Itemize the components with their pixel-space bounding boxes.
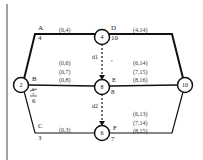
activity-f-duration: 7: [111, 136, 115, 143]
activity-b-pair-1: (0,6): [59, 59, 71, 68]
activity-e-name: E: [112, 77, 116, 84]
edge-activity-b: [28, 85, 95, 86]
network-diagram: [0, 0, 203, 160]
activity-d-name: D: [111, 25, 116, 32]
activity-b-duration: 6: [32, 98, 36, 105]
activity-e-duration: 8: [111, 89, 115, 96]
activity-a-name: A: [38, 25, 43, 32]
node-4-label: 4: [95, 34, 109, 40]
activity-c-pair: (0,3): [59, 126, 71, 135]
dummy-d2-label: d2: [92, 103, 98, 109]
edge-activity-e: [109, 85, 178, 86]
node-10-label: 10: [178, 82, 192, 88]
activity-d-pair: (4,14): [133, 26, 148, 35]
activity-c-name: C: [38, 123, 43, 130]
activity-a-duration: 4: [38, 35, 42, 42]
activity-f-name: F: [113, 125, 117, 132]
activity-e-pair-3: (8,16): [133, 76, 148, 85]
activity-b-name: B: [32, 76, 37, 83]
dummy-d1-mark: ,: [111, 56, 113, 63]
activity-d-duration: 10: [111, 35, 118, 42]
node-8-label: 8: [95, 84, 109, 90]
activity-c-duration: 3: [38, 135, 42, 142]
dummy-d1-label: d1: [92, 54, 98, 60]
node-6-label: 6: [95, 130, 109, 136]
activity-f-pair-1: (6,13): [133, 110, 148, 119]
node-2-label: 2: [14, 82, 28, 88]
activity-f-pair-3: (8,15): [133, 127, 148, 136]
activity-e-pair-1: (6,14): [133, 59, 148, 68]
activity-a-pair: (0,4): [59, 26, 71, 35]
activity-b-pair-3: (0,8): [59, 76, 71, 85]
